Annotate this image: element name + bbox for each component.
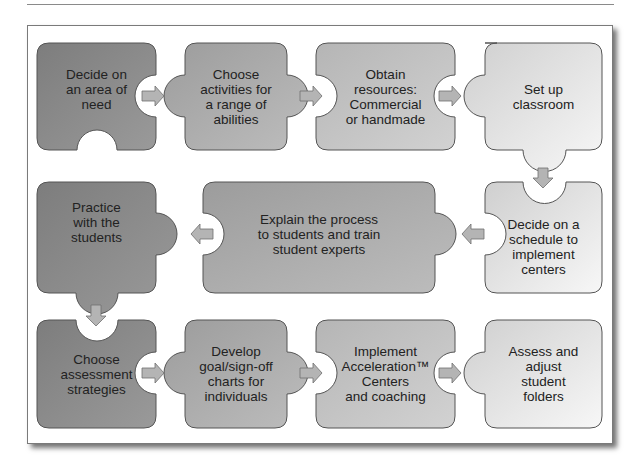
step-3-label: Obtainresources:Commercialor handmade (316, 43, 455, 150)
step-4-label: Set upclassroom (485, 43, 602, 150)
step-9-label: Developgoal/sign-offcharts forindividual… (185, 320, 287, 428)
step-5-label: Decide on aschedule toimplementcenters (485, 200, 602, 293)
arrow-left-icon (462, 224, 484, 244)
step-11-label: Assess andadjuststudentfolders (485, 320, 602, 428)
step-8-label: Chooseassessmentstrategies (37, 340, 156, 408)
step-1-label: Decide onan area ofneed (37, 43, 156, 150)
step-2-label: Chooseactivities fora range ofabilities (185, 43, 287, 150)
step-6-label: Explain the processto students and train… (203, 182, 435, 286)
step-7-label: Practicewith thestudents (37, 182, 156, 262)
step-10-label: ImplementAcceleration™Centersand coachin… (316, 320, 455, 428)
